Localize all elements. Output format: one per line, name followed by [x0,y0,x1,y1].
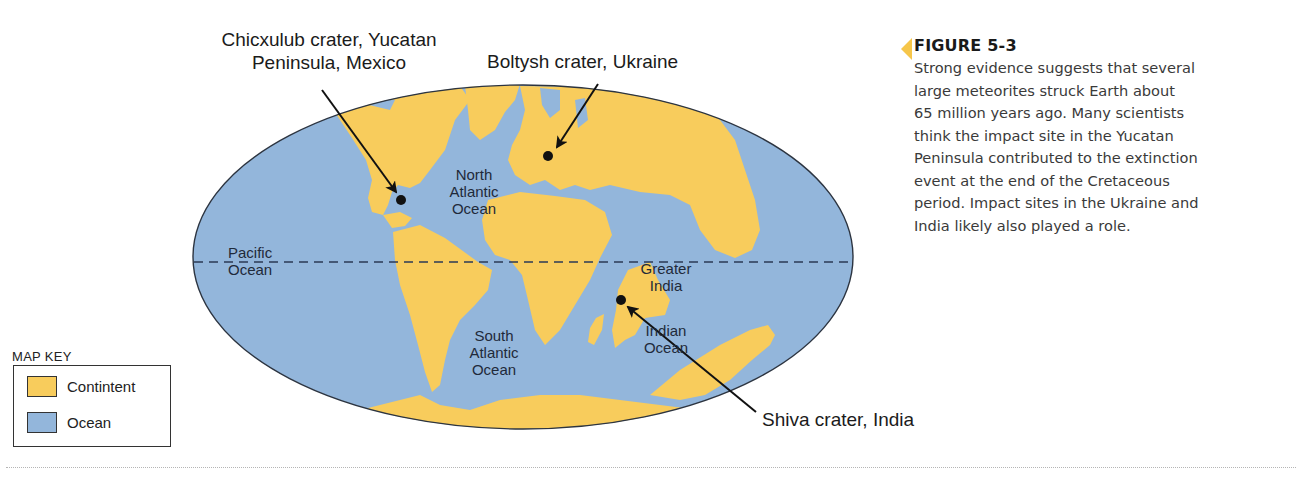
region-label-line: Ocean [228,261,298,278]
region-label-line: Ocean [434,200,514,217]
caption-line: 65 million years ago. Many scientists [914,102,1284,125]
shiva-crater-dot [616,295,626,305]
region-label-line: Ocean [454,361,534,378]
figure-caption: FIGURE 5-3 Strong evidence suggests that… [914,36,1284,237]
map-key-label: Contintent [67,378,135,395]
region-label-line: Ocean [636,339,696,356]
caption-line: large meteorites struck Earth about [914,80,1284,103]
north-atlantic-label: North Atlantic Ocean [434,166,514,217]
caption-line: India likely also played a role. [914,215,1284,238]
shiva-label: Shiva crater, India [762,408,914,431]
chicxulub-label-line-1: Chicxulub crater, Yucatan [197,28,461,51]
chicxulub-label: Chicxulub crater, Yucatan Peninsula, Mex… [197,28,461,74]
pacific-label: Pacific Ocean [228,244,298,278]
caption-line: Peninsula contributed to the extinction [914,147,1284,170]
page-divider [6,467,1296,468]
region-label-line: Atlantic [434,183,514,200]
figure-title: FIGURE 5-3 [914,36,1284,56]
boltysh-label-line-1: Boltysh crater, Ukraine [487,50,678,73]
caption-marker-icon [901,38,912,60]
map-key: Contintent Ocean [13,365,171,447]
boltysh-crater-dot [543,151,553,161]
region-label-line: Indian [636,322,696,339]
ocean-swatch [27,412,57,433]
region-label-line: Greater [634,260,698,277]
boltysh-label: Boltysh crater, Ukraine [487,50,678,73]
region-label-line: Pacific [228,244,298,261]
south-atlantic-label: South Atlantic Ocean [454,327,534,378]
chicxulub-crater-dot [396,195,406,205]
map-key-item-continent: Contintent [27,376,135,397]
region-label-line: South [454,327,534,344]
map-key-title: MAP KEY [12,349,72,364]
figure-caption-text: Strong evidence suggests that several la… [914,57,1284,237]
caption-line: Strong evidence suggests that several [914,57,1284,80]
continent-swatch [27,376,57,397]
chicxulub-label-line-2: Peninsula, Mexico [197,51,461,74]
caption-line: event at the end of the Cretaceous [914,170,1284,193]
caption-line: period. Impact sites in the Ukraine and [914,192,1284,215]
greater-india-label: Greater India [634,260,698,294]
caption-line: think the impact site in the Yucatan [914,125,1284,148]
region-label-line: Atlantic [454,344,534,361]
region-label-line: North [434,166,514,183]
map-key-label: Ocean [67,414,111,431]
region-label-line: India [634,277,698,294]
shiva-label-line-1: Shiva crater, India [762,408,914,431]
indian-ocean-label: Indian Ocean [636,322,696,356]
map-key-item-ocean: Ocean [27,412,111,433]
